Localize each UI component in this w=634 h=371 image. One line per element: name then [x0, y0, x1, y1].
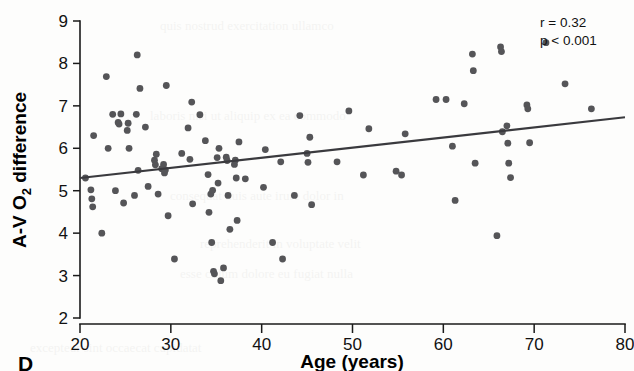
data-point — [131, 192, 138, 199]
data-point — [105, 145, 112, 152]
data-point — [202, 137, 209, 144]
data-point — [116, 121, 123, 128]
y-axis-title: A-V O2 difference — [9, 92, 34, 248]
data-point — [505, 160, 512, 167]
y-tick-label: 6 — [59, 139, 68, 158]
data-point — [185, 125, 192, 132]
x-axis-title: Age (years) — [300, 351, 404, 371]
data-point — [507, 174, 514, 181]
data-point — [125, 120, 132, 127]
data-point — [205, 171, 212, 178]
data-point — [260, 184, 267, 191]
data-point — [163, 82, 170, 89]
data-point — [296, 112, 303, 119]
data-point — [216, 145, 223, 152]
data-point — [470, 67, 477, 74]
data-point — [452, 197, 459, 204]
annotation-r-value: r = 0.32 — [540, 15, 586, 30]
data-point — [494, 232, 501, 239]
figure-panel-d: quis nostrud exercitation ullamco labori… — [0, 0, 634, 371]
y-axis-ticks: 23456789 — [59, 12, 80, 328]
data-point — [360, 172, 367, 179]
data-point — [306, 134, 313, 141]
x-tick-label: 40 — [252, 335, 271, 354]
data-point — [178, 150, 185, 157]
data-point — [443, 96, 450, 103]
data-point — [215, 180, 222, 187]
annotation-p-value: p < 0.001 — [540, 33, 597, 48]
svg-text:esse cillum dolore eu fugiat n: esse cillum dolore eu fugiat nulla — [180, 266, 353, 281]
data-point — [562, 80, 569, 87]
x-tick-label: 30 — [161, 335, 180, 354]
data-point — [90, 132, 97, 139]
data-point — [365, 125, 372, 132]
data-point — [398, 172, 405, 179]
data-point — [277, 158, 284, 165]
y-tick-label: 2 — [59, 309, 68, 328]
svg-text:laboris nisi ut aliquip ex ea: laboris nisi ut aliquip ex ea commodo — [150, 108, 346, 123]
data-point — [133, 111, 140, 118]
data-point — [145, 183, 152, 190]
x-tick-label: 70 — [525, 335, 544, 354]
data-point — [269, 239, 276, 246]
data-point — [206, 209, 213, 216]
data-point — [588, 105, 595, 112]
y-axis-title-subscript: 2 — [19, 188, 34, 195]
data-point — [279, 256, 286, 263]
data-point — [234, 217, 241, 224]
data-point — [472, 160, 479, 167]
regression-trend-line — [80, 117, 625, 178]
data-point — [504, 122, 511, 129]
data-point — [187, 156, 194, 163]
data-point — [189, 200, 196, 207]
data-point — [165, 212, 172, 219]
data-point — [524, 105, 531, 112]
y-tick-label: 4 — [59, 224, 68, 243]
y-tick-label: 3 — [59, 267, 68, 286]
data-point — [120, 200, 127, 207]
data-point — [217, 277, 224, 284]
data-point — [433, 96, 440, 103]
y-axis-title-tail: difference — [9, 92, 30, 188]
data-point — [225, 192, 232, 199]
data-point — [449, 143, 456, 150]
y-tick-label: 9 — [59, 12, 68, 31]
data-point — [209, 187, 216, 194]
y-tick-label: 8 — [59, 54, 68, 73]
data-point — [305, 159, 312, 166]
data-point — [214, 154, 221, 161]
data-point — [137, 85, 144, 92]
data-point — [402, 130, 409, 137]
data-point — [103, 73, 110, 80]
svg-text:quis nostrud exercitation ulla: quis nostrud exercitation ullamco — [160, 18, 334, 33]
data-point — [334, 158, 341, 165]
data-point — [188, 99, 195, 106]
data-point — [498, 48, 505, 55]
data-point — [233, 175, 240, 182]
data-point — [88, 186, 95, 193]
data-point — [126, 145, 133, 152]
y-tick-label: 7 — [59, 97, 68, 116]
data-point — [226, 226, 233, 233]
data-point — [211, 270, 218, 277]
y-tick-label: 5 — [59, 182, 68, 201]
scatter-plot: quis nostrud exercitation ullamco labori… — [0, 0, 634, 371]
svg-text:consequat duis aute irure dolo: consequat duis aute irure dolor in — [170, 188, 344, 203]
data-point — [152, 161, 159, 168]
svg-text:reprehenderit in voluptate vel: reprehenderit in voluptate velit — [200, 236, 361, 251]
data-point — [153, 151, 160, 158]
data-point — [98, 230, 105, 237]
data-point — [262, 146, 269, 153]
data-point — [89, 203, 96, 210]
y-axis-title-main: A-V O — [9, 195, 30, 248]
data-point — [117, 111, 124, 118]
data-point — [236, 139, 243, 146]
data-point — [112, 187, 119, 194]
data-point — [155, 191, 162, 198]
x-tick-label: 60 — [434, 335, 453, 354]
data-point — [242, 175, 249, 182]
x-tick-label: 80 — [616, 335, 634, 354]
x-tick-label: 20 — [71, 335, 90, 354]
data-point — [291, 192, 298, 199]
data-point — [142, 124, 149, 131]
